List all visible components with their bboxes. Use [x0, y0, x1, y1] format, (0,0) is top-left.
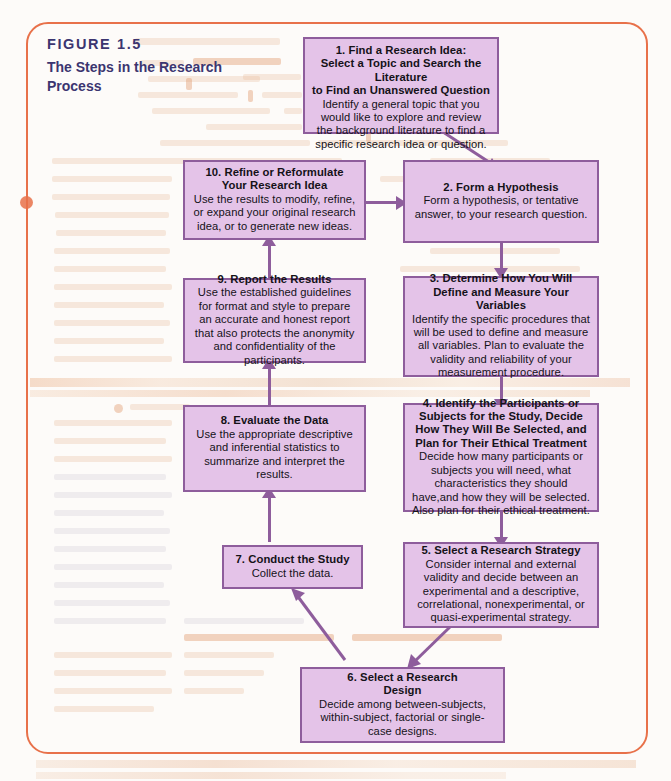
- step-3-heading: 3. Determine How You Will Define and Mea…: [412, 272, 590, 312]
- step-box-1[interactable]: 1. Find a Research Idea:Select a Topic a…: [303, 37, 499, 134]
- step-8-heading: 8. Evaluate the Data: [192, 414, 357, 427]
- step-10-heading: 10. Refine or Reformulate Your Research …: [192, 166, 357, 193]
- step-9-body: Use the established guidelines for forma…: [192, 286, 357, 366]
- step-6-heading: 6. Select a ResearchDesign: [309, 671, 496, 698]
- step-5-body: Consider internal and external validity …: [412, 558, 590, 625]
- step-box-9[interactable]: 9. Report the Results Use the establishe…: [183, 278, 366, 363]
- step-box-2[interactable]: 2. Form a Hypothesis Form a hypothesis, …: [403, 160, 599, 243]
- connector-5-to-6: [407, 625, 452, 669]
- step-box-4[interactable]: 4. Identify the Participants or Subjects…: [403, 403, 599, 512]
- step-box-6[interactable]: 6. Select a ResearchDesign Decide among …: [300, 667, 505, 743]
- step-1-heading: 1. Find a Research Idea:Select a Topic a…: [312, 44, 490, 98]
- step-4-body: Decide how many participants or subjects…: [412, 450, 590, 517]
- step-2-body: Form a hypothesis, or tentative answer, …: [412, 194, 590, 221]
- step-9-heading: 9. Report the Results: [192, 273, 357, 286]
- step-7-body: Collect the data.: [231, 567, 354, 580]
- step-box-8[interactable]: 8. Evaluate the Data Use the appropriate…: [183, 405, 366, 492]
- step-8-body: Use the appropriate descriptive and infe…: [192, 428, 357, 482]
- step-box-5[interactable]: 5. Select a Research Strategy Consider i…: [403, 542, 599, 628]
- frame-accent-dot: [20, 196, 33, 209]
- connector-10-to-2: [366, 201, 402, 204]
- step-box-7[interactable]: 7. Conduct the Study Collect the data.: [222, 545, 363, 589]
- step-box-10[interactable]: 10. Refine or Reformulate Your Research …: [183, 160, 366, 240]
- step-5-heading: 5. Select a Research Strategy: [412, 544, 590, 557]
- figure-page: FIGURE 1.5 The Steps in the Research Pro…: [0, 0, 671, 781]
- connector-6-to-7: [291, 588, 345, 660]
- step-6-body: Decide among between-subjects, within-su…: [309, 698, 496, 738]
- step-3-body: Identify the specific procedures that wi…: [412, 313, 590, 380]
- connector-2-to-3: [500, 243, 503, 273]
- step-10-body: Use the results to modify, refine, or ex…: [192, 193, 357, 233]
- step-1-body: Identify a general topic that you would …: [312, 98, 490, 152]
- figure-caption: FIGURE 1.5 The Steps in the Research Pro…: [47, 36, 237, 96]
- step-4-heading: 4. Identify the Participants or Subjects…: [412, 397, 590, 451]
- step-box-3[interactable]: 3. Determine How You Will Define and Mea…: [403, 276, 599, 377]
- step-7-heading: 7. Conduct the Study: [231, 553, 354, 566]
- figure-title: The Steps in the Research Process: [47, 58, 237, 96]
- connector-8-to-9: [268, 363, 271, 405]
- step-2-heading: 2. Form a Hypothesis: [412, 181, 590, 194]
- connector-7-to-8: [268, 492, 271, 542]
- figure-number: FIGURE 1.5: [47, 36, 237, 52]
